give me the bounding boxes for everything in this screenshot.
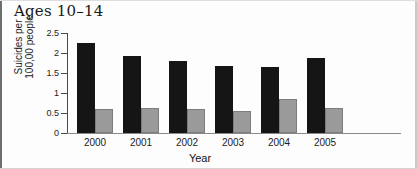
y-tick-mark <box>61 73 67 74</box>
x-axis-title: Year <box>67 152 333 164</box>
y-tick-label: 0.5 <box>46 108 59 118</box>
y-axis-title-line-2: 100,00 people <box>24 0 35 95</box>
bar-series-light-2004 <box>279 99 297 133</box>
x-tick-label-2001: 2001 <box>130 137 152 148</box>
scan-border-top <box>0 0 417 1</box>
y-tick-mark <box>61 53 67 54</box>
bar-series-light-2000 <box>95 109 113 133</box>
y-tick-label: 0 <box>54 128 59 138</box>
scan-border-left <box>0 0 2 169</box>
bar-series-light-2005 <box>325 108 343 133</box>
bar-series-light-2003 <box>233 111 251 133</box>
y-axis-line <box>67 33 68 133</box>
bar-series-dark-2001 <box>123 56 141 133</box>
bar-series-dark-2004 <box>261 67 279 133</box>
bar-series-dark-2005 <box>307 58 325 133</box>
x-tick-label-2000: 2000 <box>84 137 106 148</box>
y-tick-label: 2 <box>54 48 59 58</box>
y-tick-label: 2.5 <box>46 28 59 38</box>
y-axis-title-line-1: Suicides per <box>13 0 24 95</box>
x-tick-label-2003: 2003 <box>222 137 244 148</box>
bar-series-light-2002 <box>187 109 205 133</box>
scan-border-bottom <box>0 168 417 169</box>
y-tick-mark <box>61 133 67 134</box>
y-tick-mark <box>61 93 67 94</box>
bar-series-dark-2003 <box>215 66 233 133</box>
y-tick-mark <box>61 113 67 114</box>
x-tick-label-2004: 2004 <box>268 137 290 148</box>
plot-area: 00.511.522.5 200020012002200320042005 <box>67 33 401 133</box>
chart-figure: Ages 10–14 Suicides per 100,00 people 00… <box>0 0 417 169</box>
y-axis-title: Suicides per 100,00 people <box>13 0 35 95</box>
x-axis-line <box>67 133 401 134</box>
y-tick-label: 1.5 <box>46 68 59 78</box>
y-tick-mark <box>61 33 67 34</box>
bar-series-light-2001 <box>141 108 159 133</box>
x-tick-label-2005: 2005 <box>314 137 336 148</box>
y-tick-label: 1 <box>54 88 59 98</box>
bar-series-dark-2002 <box>169 61 187 133</box>
x-tick-label-2002: 2002 <box>176 137 198 148</box>
bar-series-dark-2000 <box>77 43 95 133</box>
